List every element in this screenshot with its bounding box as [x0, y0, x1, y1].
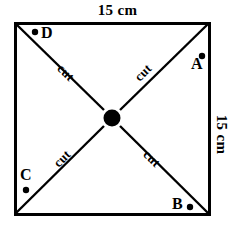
corner-label-a: A: [191, 56, 203, 72]
marker-dot-b: [187, 204, 193, 210]
dimension-label-top: 15 cm: [0, 3, 235, 18]
diagram-canvas: [0, 0, 235, 235]
corner-label-d: D: [41, 25, 53, 41]
corner-label-b: B: [172, 196, 183, 212]
marker-dot-d: [32, 29, 38, 35]
dimension-label-right: 15 cm: [214, 100, 229, 170]
marker-dot-c: [23, 187, 29, 193]
center-dot: [104, 110, 121, 127]
corner-label-c: C: [20, 167, 32, 183]
cut-square-diagram: 15 cm 15 cm A B C D cut cut cut cut: [0, 0, 235, 235]
